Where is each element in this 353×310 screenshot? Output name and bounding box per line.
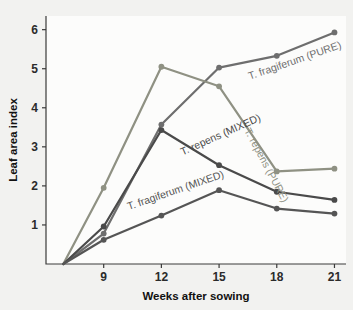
- series-inline-label: T. repens (PURE): [242, 126, 291, 204]
- y-tick-label: 2: [31, 179, 38, 193]
- series-inline-label: T. fragiferum (MIXED): [125, 168, 225, 212]
- data-point: [216, 83, 222, 89]
- y-axis-title: Leaf area index: [7, 98, 19, 182]
- line-chart: 123456912151821 T. fragiferum (PURE)T. r…: [0, 0, 353, 310]
- data-point: [332, 166, 338, 172]
- x-tick-label: 18: [270, 270, 284, 284]
- data-point: [158, 213, 164, 219]
- y-tick-label: 1: [31, 218, 38, 232]
- data-point: [332, 211, 338, 217]
- y-tick-label: 3: [31, 140, 38, 154]
- y-tick-label: 5: [31, 62, 38, 76]
- chart-figure: 123456912151821 T. fragiferum (PURE)T. r…: [0, 0, 353, 310]
- data-point: [274, 53, 280, 59]
- data-point: [101, 185, 107, 191]
- data-point: [158, 64, 164, 70]
- data-point: [158, 122, 164, 128]
- data-point: [332, 197, 338, 203]
- data-point: [158, 127, 164, 133]
- x-axis-title: Weeks after sowing: [142, 290, 249, 302]
- x-tick-label: 15: [212, 270, 226, 284]
- data-point: [274, 206, 280, 212]
- data-point: [216, 187, 222, 193]
- data-point: [101, 237, 107, 243]
- x-tick-label: 9: [100, 270, 107, 284]
- data-point: [216, 65, 222, 71]
- data-point: [101, 224, 107, 230]
- data-point: [101, 231, 107, 237]
- y-tick-label: 6: [31, 23, 38, 37]
- x-tick-label: 21: [328, 270, 342, 284]
- data-point: [332, 30, 338, 36]
- y-tick-label: 4: [31, 101, 38, 115]
- x-tick-label: 12: [155, 270, 169, 284]
